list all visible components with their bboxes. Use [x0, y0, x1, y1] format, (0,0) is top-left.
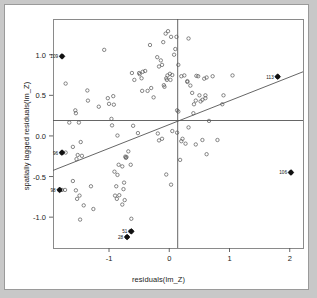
highlight-point-label: 106	[279, 170, 288, 175]
x-tick-label: -1	[106, 254, 113, 263]
highlight-point-label: 51	[122, 229, 128, 234]
x-axis-label: residuals(lm_Z)	[0, 275, 317, 284]
x-tick-label: 1	[227, 254, 231, 263]
y-tick-label: 0.0	[36, 131, 46, 140]
y-tick-label: 0.5	[36, 91, 46, 100]
highlight-point-label: 96	[53, 150, 59, 155]
highlight-point-label: 109	[50, 54, 59, 59]
plot-canvas	[0, 0, 317, 298]
y-axis-label-wrapper: spatially lagged residuals(lm_Z)	[15, 36, 33, 236]
highlight-point-label: 28	[118, 235, 124, 240]
highlight-point-label: 113	[266, 74, 274, 79]
y-tick-label: 1.0	[36, 50, 46, 59]
highlight-point-label: 98	[51, 187, 57, 192]
y-axis-label: spatially lagged residuals(lm_Z)	[22, 82, 31, 191]
moran-scatterplot-screenshot: residuals(lm_Z) spatially lagged residua…	[0, 0, 317, 298]
y-tick-label: -0.5	[33, 172, 46, 181]
x-tick-label: 2	[288, 254, 292, 263]
y-tick-label: -1.0	[33, 213, 46, 222]
x-tick-label: 0	[167, 254, 171, 263]
